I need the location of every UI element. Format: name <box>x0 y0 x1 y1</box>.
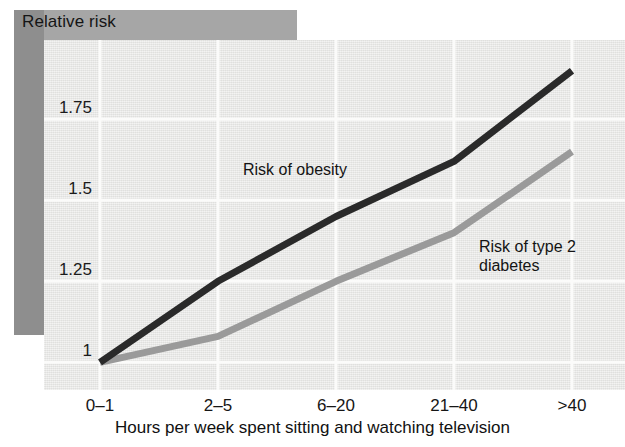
x-tick-label: >40 <box>517 396 625 416</box>
series-label-diabetes: Risk of type 2 diabetes <box>479 237 576 275</box>
x-tick-label: 21–40 <box>399 396 509 416</box>
x-tick-label: 6–20 <box>281 396 391 416</box>
relative-risk-figure: Relative risk 11.251.51.75 0–12–56–2021–… <box>0 0 625 447</box>
x-axis-title: Hours per week spent sitting and watchin… <box>0 418 625 438</box>
y-tick-label: 1.25 <box>30 260 92 280</box>
y-tick-label: 1.75 <box>30 98 92 118</box>
x-tick-label: 2–5 <box>163 396 273 416</box>
series-label-obesity: Risk of obesity <box>243 160 347 179</box>
y-tick-label: 1.5 <box>30 179 92 199</box>
y-tick-label: 1 <box>30 341 92 361</box>
x-tick-label: 0–1 <box>45 396 155 416</box>
plot-svg <box>0 0 625 447</box>
